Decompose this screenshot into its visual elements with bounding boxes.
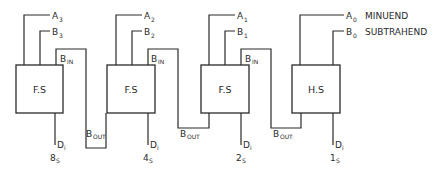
svg-text:B: B [151,54,157,64]
svg-text:i: i [250,144,252,151]
svg-text:OUT: OUT [187,133,200,140]
svg-text:1: 1 [244,16,248,23]
svg-text:B: B [60,54,66,64]
svg-text:3: 3 [59,32,63,39]
full-subtractor-bit2: F.S A 2 B 2 B IN D i 4 S [107,11,209,164]
svg-text:IN: IN [252,58,258,65]
svg-text:3: 3 [59,16,63,23]
svg-text:B: B [86,129,92,139]
svg-text:1: 1 [330,153,336,163]
svg-text:A: A [52,11,59,21]
svg-text:D: D [243,140,250,150]
svg-text:S: S [149,157,153,164]
svg-text:B: B [180,129,186,139]
svg-text:i: i [342,144,344,151]
svg-text:A: A [144,11,151,21]
svg-text:IN: IN [158,58,164,65]
half-subtractor-bit0: H.S A 0 MINUEND B 0 SUBTRAHEND D i 1 S [292,11,427,164]
svg-text:i: i [157,144,159,151]
full-subtractor-bit1: F.S A 1 B 1 B IN D i 2 S [201,11,301,164]
borrow-out-labels: B OUT B OUT B OUT [86,129,293,140]
svg-text:A: A [346,11,353,21]
svg-text:2: 2 [151,32,155,39]
svg-text:D: D [335,140,342,150]
subtractor-diagram: F.S A 3 B 3 B IN D i 8 S F.S A 2 B 2 B I… [0,0,443,170]
svg-text:OUT: OUT [280,133,293,140]
svg-text:S: S [56,157,60,164]
block-label: F.S [33,84,46,95]
svg-text:D: D [57,140,64,150]
svg-text:F.S: F.S [219,84,232,95]
svg-text:i: i [64,144,66,151]
minuend-label: MINUEND [365,11,408,21]
subtrahend-label: SUBTRAHEND [365,27,427,37]
svg-text:2: 2 [151,16,155,23]
svg-text:0: 0 [353,32,357,39]
svg-text:S: S [336,157,340,164]
svg-text:0: 0 [353,16,357,23]
full-subtractor-bit3: F.S A 3 B 3 B IN D i 8 S [16,11,106,164]
svg-text:S: S [242,157,246,164]
svg-text:OUT: OUT [93,133,106,140]
svg-text:B: B [144,27,150,37]
svg-text:B: B [273,129,279,139]
svg-text:D: D [150,140,157,150]
svg-text:B: B [346,27,352,37]
svg-text:B: B [245,54,251,64]
svg-text:B: B [52,27,58,37]
svg-text:F.S: F.S [125,84,138,95]
svg-text:B: B [237,27,243,37]
svg-text:1: 1 [244,32,248,39]
svg-text:H.S: H.S [308,84,324,95]
svg-text:2: 2 [236,153,242,163]
svg-text:A: A [237,11,244,21]
svg-text:IN: IN [67,58,73,65]
